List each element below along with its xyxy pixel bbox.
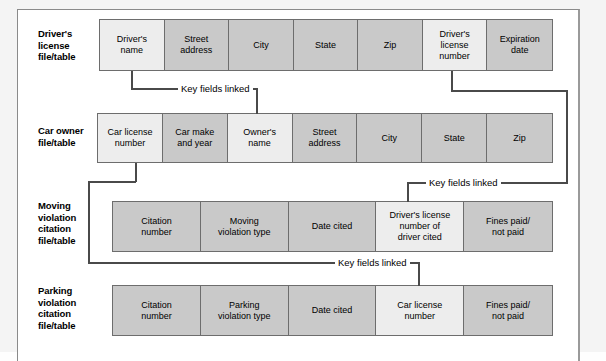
table-cell-drivers-license-1: Street address (165, 20, 230, 70)
table-cell-parking-violation-3: Car license number (376, 286, 464, 335)
table-cell-car-owner-2: Owner's name (228, 114, 293, 162)
connector-segment (88, 181, 136, 183)
connector-segment (135, 163, 137, 182)
table-cell-moving-violation-2: Date cited (289, 202, 377, 251)
connector-segment (131, 71, 133, 89)
link-label-key-fields-linked: Key fields linked (178, 83, 253, 94)
table-cell-parking-violation-0: Citation number (113, 286, 201, 335)
table-cell-moving-violation-0: Citation number (113, 202, 201, 251)
table-row: Citation numberParking violation typeDat… (112, 285, 553, 336)
connector-segment (566, 90, 568, 183)
connector-segment (418, 262, 420, 286)
row-label-parking-violation: Parking violation citation file/table (38, 285, 104, 331)
table-cell-moving-violation-3: Driver's license number of driver cited (376, 202, 464, 251)
table-cell-car-owner-6: Zip (487, 114, 552, 162)
table-row: Driver's nameStreet addressCityStateZipD… (99, 19, 553, 71)
table-cell-parking-violation-1: Parking violation type (201, 286, 289, 335)
table-cell-drivers-license-0: Driver's name (100, 20, 165, 70)
table-cell-parking-violation-2: Date cited (289, 286, 377, 335)
row-label-car-owner: Car owner file/table (38, 125, 100, 148)
link-label-key-fields-linked: Key fields linked (426, 177, 501, 188)
table-cell-drivers-license-6: Expiration date (487, 20, 552, 70)
table-cell-drivers-license-5: Driver's license number (423, 20, 488, 70)
link-label-key-fields-linked: Key fields linked (335, 257, 410, 268)
table-cell-car-owner-1: Car make and year (163, 114, 228, 162)
table-row: Car license numberCar make and yearOwner… (97, 113, 553, 163)
connector-segment (451, 71, 453, 91)
connector-segment (88, 181, 90, 263)
table-cell-moving-violation-4: Fines paid/ not paid (464, 202, 552, 251)
row-label-drivers-license: Driver's license file/table (38, 28, 100, 63)
table-cell-car-owner-5: State (422, 114, 487, 162)
table-cell-car-owner-4: City (357, 114, 422, 162)
table-cell-drivers-license-3: State (294, 20, 359, 70)
table-cell-car-owner-3: Street address (293, 114, 358, 162)
connector-segment (451, 90, 568, 92)
connector-segment (407, 182, 409, 202)
connector-segment (256, 88, 258, 114)
table-cell-moving-violation-1: Moving violation type (201, 202, 289, 251)
row-label-moving-violation: Moving violation citation file/table (38, 200, 104, 246)
table-cell-car-owner-0: Car license number (98, 114, 163, 162)
table-row: Citation numberMoving violation typeDate… (112, 201, 553, 252)
table-cell-drivers-license-2: City (229, 20, 294, 70)
table-cell-parking-violation-4: Fines paid/ not paid (464, 286, 552, 335)
table-cell-drivers-license-4: Zip (358, 20, 423, 70)
